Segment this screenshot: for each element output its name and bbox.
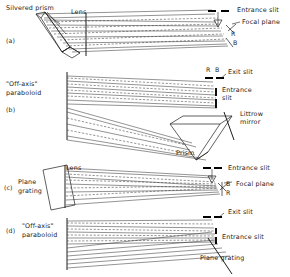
label-entrance-slit-b-line2: slit [222,94,232,102]
entrance-slit-a [208,11,229,27]
spectrograph-figure: Silvered prism Lens Entrance slit Focal … [0,0,290,277]
label-paraboloid-d-line2: paraboloid [22,231,58,239]
exit-slit-b [205,74,226,79]
focal-plane-line-a [226,38,233,47]
label-entrance-slit-b-line1: Entrance [222,86,252,94]
label-entrance-slit-d: Entrance slit [222,233,264,241]
panel-label-b: (b) [6,106,15,113]
label-focal-plane-a: Focal plane [242,18,280,26]
panel-label-c: (c) [4,184,13,191]
panel-d: "Off-axis" paraboloid Exit slit Entrance… [6,208,264,274]
label-plane-grating-d: Plane grating [200,254,245,262]
label-paraboloid-b-line1: "Off-axis" [6,80,38,88]
ray-bundle-b [67,76,217,160]
label-entrance-slit-c: Entrance slit [228,164,270,172]
label-littrow-b-line2: mirror [240,118,261,126]
silvered-prism-shape [36,12,80,58]
label-focal-plane-c: Focal plane [236,180,274,188]
label-plane-grating-c-line1: Plane [18,178,36,186]
label-littrow-b-line1: Littrow [240,110,263,118]
label-lens-a: Lens [71,8,87,16]
label-b-b: B [215,66,219,73]
ray-bundle-c [66,168,220,205]
label-paraboloid-d-line1: "Off-axis" [22,222,54,230]
figure-canvas: Silvered prism Lens Entrance slit Focal … [0,0,290,277]
ray-bundle-a [36,10,228,52]
label-silvered-prism: Silvered prism [6,4,54,12]
panel-b: "Off-axis" paraboloid R B Exit slit Entr… [6,66,263,160]
exit-slit-d [203,213,224,218]
leader-silvered-prism-2 [47,12,66,34]
label-r-b: R [206,66,211,73]
label-lens-c: Lens [66,164,82,172]
label-r-a: R [231,30,236,37]
label-b-a: B [233,39,237,46]
label-b-c: B [226,180,230,187]
panel-c: Plane grating Lens Entrance slit Focal p… [4,164,274,210]
label-paraboloid-b-line2: paraboloid [6,89,42,97]
label-prism-b: Prism [176,149,194,157]
panel-a: Silvered prism Lens Entrance slit Focal … [6,4,280,58]
label-exit-slit-b: Exit slit [228,68,253,76]
panel-label-d: (d) [6,227,15,234]
label-plane-grating-c-line2: grating [18,187,42,195]
label-exit-slit-d: Exit slit [228,208,253,216]
label-r-c: R [226,189,231,196]
panel-label-a: (a) [6,37,15,44]
label-entrance-slit-a: Entrance slit [237,6,279,14]
